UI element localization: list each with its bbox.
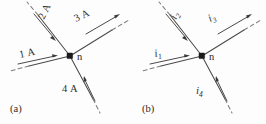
panel-a-node-label: n [77,51,83,62]
panel-a-branch-3-arrow-shaft [86,16,117,34]
panel-b-branch-2-line [170,15,202,56]
panel-b-branch-3-arrow-shaft [218,16,249,34]
node-current-diagram: 2 A 3 A 1 A 4 A n (a) [0,0,266,124]
panel-b-branch-1-arrowhead [184,54,190,57]
panel-a-branch-2-label: 2 A [36,2,53,21]
panel-a-branch-1-arrowhead [52,54,58,57]
panel-a-branch-2-line [38,15,70,56]
panel-b-caption: (b) [142,103,155,115]
panel-b: i2 i3 i1 i4 n (b) [142,2,261,115]
panel-a-node-dot [67,53,73,59]
panel-b-branch-2-label: i2 [167,9,183,22]
panel-b-branch-3-label: i3 [206,10,219,26]
panel-a-branch-3-label: 3 A [72,7,91,24]
panel-a-branch-3-dash [112,20,129,30]
panel-a-branch-4-arrowhead [84,76,87,82]
panel-b-branch-4-line [202,56,225,99]
panel-b-node-dot [199,53,205,59]
panel-b-branch-4-label: i4 [196,84,203,99]
panel-a-branch-4-label: 4 A [62,83,78,94]
panel-a-branch-1-label: 1 A [18,46,36,60]
panel-b-branch-1-label: i1 [153,46,162,62]
panel-a-branch-4-arrow-shaft [84,78,95,101]
panel-b-branch-3-dash [244,20,261,30]
panel-a: 2 A 3 A 1 A 4 A n (a) [10,2,129,115]
panel-b-branch-4-arrowhead [216,76,219,82]
panel-a-branch-4-dash [93,99,100,113]
panel-b-branch-1-dash [142,66,161,71]
panel-a-branch-1-dash [10,66,29,71]
panel-b-branch-4-arrow-shaft [216,78,227,101]
panel-b-node-label: n [209,51,215,62]
panel-b-branch-4-dash [225,99,232,113]
figure-canvas: 2 A 3 A 1 A 4 A n (a) [0,0,266,124]
panel-a-caption: (a) [10,103,22,115]
